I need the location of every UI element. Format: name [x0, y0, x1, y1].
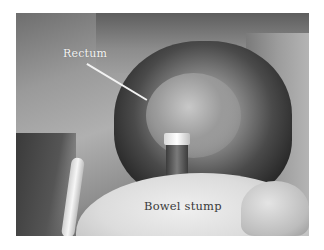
rectum-region [146, 73, 241, 158]
rectum-label: Rectum [63, 47, 107, 60]
bowel-stump-label: Bowel stump [144, 199, 222, 213]
bowel-stump-right-region [241, 181, 309, 236]
stapler-head [164, 133, 190, 145]
